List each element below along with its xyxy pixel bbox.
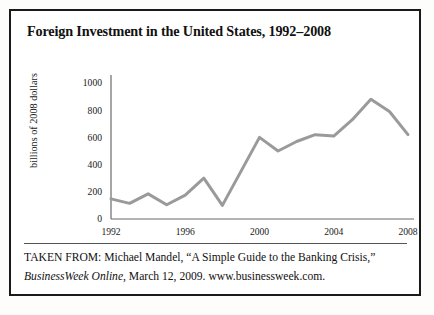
chart-title: Foreign Investment in the United States,… [27, 23, 331, 40]
x-tick-label: 2000 [250, 226, 269, 237]
line-chart: 0200400600800100019921996200020042008 [11, 45, 418, 241]
caption-line1: TAKEN FROM: Michael Mandel, “A Simple Gu… [24, 251, 337, 264]
y-tick-label: 600 [88, 132, 103, 143]
y-tick-label: 1000 [83, 77, 102, 88]
figure-caption: TAKEN FROM: Michael Mandel, “A Simple Gu… [24, 249, 414, 286]
y-tick-label: 0 [97, 213, 102, 224]
caption-line2-suffix: , March 12, 2009. www.businessweek.com. [123, 270, 325, 283]
x-tick-label: 2004 [324, 226, 343, 237]
y-tick-label: 200 [88, 186, 103, 197]
figure-container: Foreign Investment in the United States,… [9, 9, 421, 296]
plot-area: billions of 2008 dollars 020040060080010… [11, 45, 418, 241]
caption-line2-prefix: Crisis,” [340, 251, 375, 264]
data-series-line [111, 99, 408, 205]
caption-divider [24, 243, 407, 244]
x-tick-label: 2008 [398, 226, 417, 237]
caption-publication: BusinessWeek Online [24, 270, 123, 283]
y-tick-label: 800 [88, 105, 103, 116]
y-tick-label: 400 [88, 159, 103, 170]
x-tick-label: 1996 [176, 226, 195, 237]
x-tick-label: 1992 [101, 226, 120, 237]
